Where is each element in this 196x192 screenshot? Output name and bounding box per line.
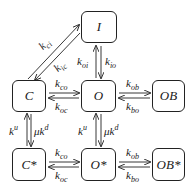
- arrow-c-to-i: [28, 25, 79, 79]
- rate-koi: koi: [77, 56, 88, 70]
- state-ob-star-label: OB*: [157, 157, 181, 173]
- rate-kob-top: kob: [126, 78, 139, 92]
- rate-ku-mid: ku: [78, 124, 87, 137]
- state-ob-star: OB*: [152, 148, 185, 181]
- state-c-star: C*: [12, 148, 46, 181]
- rate-kbo-top: kbo: [126, 101, 139, 115]
- rate-kbo-bottom: kbo: [126, 170, 139, 184]
- rate-koc-bottom: koc: [55, 170, 67, 184]
- state-c: C: [12, 80, 46, 112]
- state-o-label: O: [94, 88, 103, 104]
- rate-kob-bottom: kob: [126, 147, 139, 161]
- state-c-label: C: [25, 88, 34, 104]
- rate-kco-bottom: kco: [55, 147, 67, 161]
- state-c-star-label: C*: [21, 157, 36, 173]
- state-i: I: [81, 11, 117, 43]
- state-o-star: O*: [81, 148, 116, 181]
- rate-mukd-left: μkd: [34, 124, 48, 137]
- state-ob: OB: [152, 80, 185, 112]
- state-ob-label: OB: [160, 88, 177, 104]
- rate-kco-top: kco: [55, 78, 67, 92]
- state-i-label: I: [97, 19, 101, 35]
- rate-kio: kio: [105, 56, 116, 70]
- rate-koc-top: koc: [55, 101, 67, 115]
- rate-mukd-mid: μkd: [104, 124, 118, 137]
- rate-ku-left: ku: [9, 124, 18, 137]
- state-o: O: [81, 80, 116, 112]
- state-o-star-label: O*: [91, 157, 107, 173]
